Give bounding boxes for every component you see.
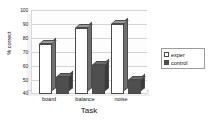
legend-label-control: control <box>171 60 188 66</box>
bar-group-noise <box>111 10 145 94</box>
x-axis-title: Task <box>31 106 147 115</box>
bar-face <box>39 44 52 94</box>
bar-group-board <box>39 10 73 94</box>
bar-chart: % correct 100 90 80 70 60 50 40 <box>0 0 210 121</box>
y-tick-label-70: 70 <box>12 50 28 55</box>
x-tick-label-noise: noise <box>104 96 138 102</box>
y-tick-label-50: 50 <box>12 78 28 83</box>
bar-balance-exper[interactable] <box>75 28 88 94</box>
bars-layer <box>31 10 147 94</box>
y-tick-label-90: 90 <box>12 22 28 27</box>
y-tick-label-40: 40 <box>12 91 28 96</box>
bar-face <box>111 24 124 94</box>
bar-face <box>92 65 105 94</box>
x-tick-label-board: board <box>32 96 66 102</box>
bar-balance-control[interactable] <box>92 65 105 94</box>
y-axis-ticks: 100 90 80 70 60 50 40 <box>6 0 28 121</box>
bar-board-exper[interactable] <box>39 44 52 94</box>
y-tick-label-100: 100 <box>12 8 28 13</box>
bar-face <box>75 28 88 94</box>
x-tick-label-balance: balance <box>68 96 102 102</box>
legend-item-control[interactable]: control <box>164 59 202 66</box>
legend-swatch-control-icon <box>164 60 169 65</box>
bar-face <box>128 80 141 94</box>
legend-label-exper: exper <box>171 52 185 58</box>
chart-legend[interactable]: exper control <box>161 48 205 69</box>
bar-noise-control[interactable] <box>128 80 141 94</box>
bar-group-balance <box>75 10 109 94</box>
y-tick-label-80: 80 <box>12 36 28 41</box>
legend-swatch-exper-icon <box>164 52 169 57</box>
y-tick-label-60: 60 <box>12 64 28 69</box>
bar-face <box>56 77 69 94</box>
legend-item-exper[interactable]: exper <box>164 51 202 58</box>
bar-board-control[interactable] <box>56 77 69 94</box>
bar-noise-exper[interactable] <box>111 24 124 94</box>
